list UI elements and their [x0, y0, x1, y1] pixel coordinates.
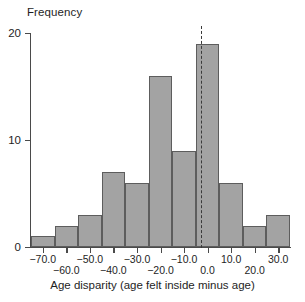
- x-axis-tick-label: −40.0: [100, 264, 127, 276]
- x-axis-tick-label: −10.0: [171, 253, 198, 265]
- x-axis-tick-label: 20.0: [244, 264, 264, 276]
- histogram-bar: [125, 183, 149, 247]
- x-axis-tick: [161, 248, 162, 253]
- histogram-bar: [55, 226, 79, 247]
- x-axis-tick: [208, 248, 209, 253]
- y-axis-tick: [25, 247, 31, 248]
- histogram-bar: [172, 151, 196, 247]
- x-axis-tick-label: 30.0: [268, 253, 288, 265]
- x-axis-title: Age disparity (age felt inside minus age…: [0, 279, 305, 291]
- histogram-figure: Frequency 01020 −70.0−60.0−50.0−40.0−30.…: [0, 0, 305, 302]
- x-axis-tick-label: 10.0: [221, 253, 241, 265]
- mean-reference-line: [201, 26, 202, 248]
- histogram-bar: [266, 215, 290, 247]
- histogram-bar: [219, 183, 243, 247]
- x-axis-tick-label: −20.0: [147, 264, 174, 276]
- histogram-bar: [102, 172, 126, 247]
- y-axis-tick-label: 10: [8, 134, 21, 146]
- y-axis-tick-label: 0: [15, 241, 21, 253]
- y-axis-tick-label: 20: [8, 27, 21, 39]
- histogram-bar: [243, 226, 267, 247]
- y-axis-title: Frequency: [27, 6, 82, 18]
- histogram-bar: [31, 236, 55, 247]
- histogram-bar: [149, 76, 173, 247]
- x-axis-tick: [66, 248, 67, 253]
- x-axis-tick: [255, 248, 256, 253]
- histogram-bar: [196, 44, 220, 247]
- plot-area: [31, 33, 290, 247]
- x-axis-tick-label: −60.0: [53, 264, 80, 276]
- x-axis-tick-label: 0.0: [200, 264, 215, 276]
- x-axis-tick: [113, 248, 114, 253]
- histogram-bar: [78, 215, 102, 247]
